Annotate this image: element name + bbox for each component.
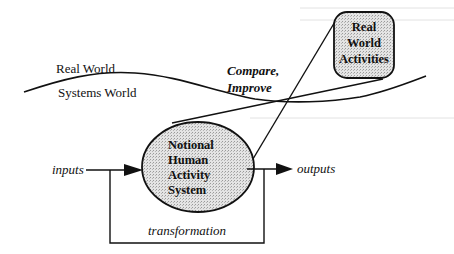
inputs-label: inputs [52, 163, 84, 176]
system-ellipse-label: Notional Human Activity System [168, 138, 214, 198]
transformation-label: transformation [148, 224, 226, 237]
rwa-line-2: World [334, 35, 394, 51]
system-line-4: System [168, 183, 214, 198]
outputs-arrowhead-icon [276, 163, 293, 175]
system-line-2: Human [168, 153, 214, 168]
inputs-arrowhead-icon [124, 164, 143, 176]
outputs-label: outputs [297, 162, 335, 175]
improve-label: Improve [227, 81, 272, 94]
rwa-line-1: Real [334, 19, 394, 35]
system-line-1: Notional [168, 138, 214, 153]
systems-world-label: Systems World [58, 86, 137, 99]
rwa-line-3: Activities [334, 51, 394, 67]
real-world-label: Real World [56, 62, 115, 75]
compare-label: Compare, [227, 64, 279, 77]
system-line-3: Activity [168, 168, 214, 183]
real-world-activities-label: Real World Activities [334, 19, 394, 67]
